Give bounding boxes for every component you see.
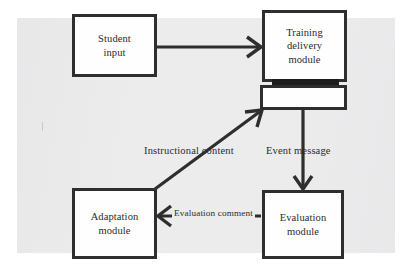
node-adaptation-module: Adaptation module xyxy=(72,188,157,259)
node-evaluation-module-label: Evaluation module xyxy=(280,211,327,238)
node-student-input-label: Student input xyxy=(98,32,131,59)
edge-label-evaluation-comment: Evaluation comment xyxy=(172,208,255,218)
diagram-screenshot: Student input Training delivery module A… xyxy=(0,0,410,274)
node-student-input: Student input xyxy=(72,14,157,77)
edge-label-event-message: Event message xyxy=(266,145,331,156)
node-buffer-box xyxy=(260,85,347,110)
node-training-delivery-module-label: Training delivery module xyxy=(286,26,323,66)
connector-layer xyxy=(0,0,410,274)
node-adaptation-module-label: Adaptation module xyxy=(91,210,139,237)
edge-label-instructional-content: Instructional content xyxy=(144,145,234,156)
node-training-delivery-module: Training delivery module xyxy=(262,10,347,82)
node-evaluation-module: Evaluation module xyxy=(262,190,344,259)
